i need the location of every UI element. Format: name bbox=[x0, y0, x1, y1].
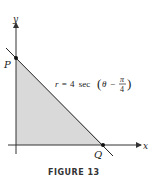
equation-label: r = 4 sec ( θ − π 4 ) bbox=[55, 75, 131, 94]
eq-sec: sec bbox=[79, 79, 91, 89]
point-q-label: Q bbox=[94, 149, 102, 160]
eq-minus: − bbox=[110, 79, 115, 89]
point-p-label: P bbox=[3, 59, 11, 70]
eq-open-paren: ( bbox=[97, 76, 101, 91]
point-q-dot bbox=[101, 143, 105, 147]
polar-line-figure: y x P Q r = 4 sec ( θ − π 4 ) FIGURE 13 bbox=[0, 0, 160, 188]
eq-coef: 4 bbox=[70, 79, 75, 89]
eq-r: r bbox=[55, 79, 59, 89]
eq-pi: π bbox=[120, 75, 125, 84]
x-axis-label: x bbox=[143, 141, 148, 151]
eq-close-paren: ) bbox=[127, 76, 131, 91]
y-axis-label: y bbox=[12, 14, 19, 24]
eq-theta: θ bbox=[102, 79, 107, 89]
eq-equals: = bbox=[62, 79, 67, 89]
point-p-dot bbox=[14, 56, 18, 60]
figure-caption: FIGURE 13 bbox=[48, 168, 100, 177]
eq-denominator: 4 bbox=[120, 85, 124, 94]
svg-text:r = 4 sec: r = 4 sec bbox=[55, 79, 90, 89]
